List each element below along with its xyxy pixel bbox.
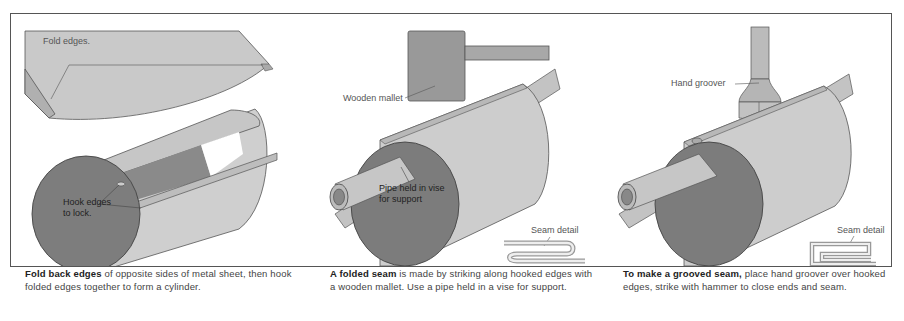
label-seam-detail: Seam detail	[531, 225, 579, 236]
label-seam-detail: Seam detail	[837, 225, 885, 236]
label-wooden-mallet: Wooden mallet	[343, 93, 403, 104]
label-pipe-line2: for support	[379, 194, 445, 205]
caption-bold: Fold back edges	[25, 268, 102, 279]
caption-grooved-seam: To make a grooved seam, place hand groov…	[623, 267, 893, 293]
panel-folded-seam: Wooden mallet Pipe held in vise for supp…	[305, 14, 599, 266]
label-pipe-line1: Pipe held in vise	[379, 183, 445, 194]
caption-bold: A folded seam	[330, 268, 397, 279]
fold-edges-illustration	[11, 14, 305, 266]
caption-bold: To make a grooved seam,	[623, 268, 742, 279]
label-fold-edges: Fold edges.	[43, 36, 90, 47]
label-hook-line1: Hook edges	[63, 197, 111, 208]
caption-fold-edges: Fold back edges of opposite sides of met…	[25, 267, 305, 293]
label-hook-line2: to lock.	[63, 208, 111, 219]
caption-folded-seam: A folded seam is made by striking along …	[330, 267, 595, 293]
label-pipe: Pipe held in vise for support	[379, 183, 445, 205]
label-hook-edges: Hook edges to lock.	[63, 197, 111, 219]
panel-fold-edges: Fold edges. Hook edges to lock. Fold bac…	[11, 14, 305, 266]
illustration-frame: Fold edges. Hook edges to lock. Fold bac…	[10, 13, 892, 267]
label-hand-groover: Hand groover	[671, 78, 726, 89]
panel-grooved-seam: Hand groover Seam detail To make a groov…	[599, 14, 891, 266]
